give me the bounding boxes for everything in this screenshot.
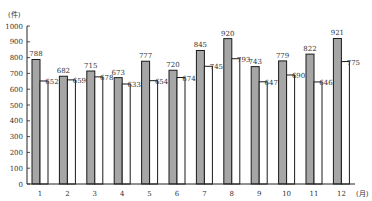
value-label: 921 (331, 29, 344, 37)
value-label: 788 (29, 50, 42, 58)
value-label: 777 (139, 52, 152, 60)
y-tick-label: 200 (10, 149, 23, 157)
bar-series-white (314, 82, 322, 184)
value-label: 715 (84, 62, 97, 70)
bar-series-gray (251, 67, 259, 184)
y-tick-label: 400 (10, 117, 23, 125)
bar-series-white (95, 77, 103, 184)
bar-group-month-3: 715678 (84, 62, 113, 184)
bar-series-gray (224, 39, 232, 184)
value-label: 682 (57, 67, 70, 75)
y-tick-label: 800 (10, 54, 23, 62)
value-label: 654 (155, 78, 169, 86)
y-tick-label: 700 (10, 70, 23, 78)
x-tick-label: 6 (175, 190, 180, 198)
bar-series-white (40, 81, 48, 184)
y-tick-label: 500 (10, 102, 23, 110)
y-tick-label: 900 (10, 38, 23, 46)
y-tick-label: 100 (10, 165, 23, 173)
value-label: 633 (128, 81, 141, 89)
bar-group-month-2: 682659 (57, 67, 86, 184)
bar-series-white (341, 62, 349, 184)
bar-series-white (177, 78, 185, 184)
bar-group-month-9: 743647 (249, 58, 278, 184)
bar-group-month-8: 920793 (221, 30, 250, 184)
value-label: 743 (249, 58, 262, 66)
bar-series-gray (196, 50, 204, 184)
x-tick-label: 2 (65, 190, 69, 198)
bar-group-month-12: 921775 (331, 29, 360, 184)
value-label: 673 (112, 69, 125, 77)
x-tick-label: 4 (120, 190, 125, 198)
y-tick-label: 600 (10, 86, 23, 94)
bar-series-white (259, 82, 267, 184)
value-label: 775 (347, 59, 360, 67)
bar-series-gray (169, 70, 177, 184)
bar-series-gray (306, 54, 314, 184)
value-label: 720 (166, 61, 179, 69)
value-label: 745 (210, 63, 223, 71)
x-axis-unit-label: (月) (356, 190, 369, 198)
bar-group-month-5: 777654 (139, 52, 169, 184)
bar-groups: 7886526826597156786736337776547206748457… (29, 29, 360, 184)
x-tick-label: 7 (202, 190, 206, 198)
y-tick-label: 0 (19, 181, 23, 189)
bar-series-gray (279, 61, 287, 184)
x-tick-label: 11 (310, 190, 319, 198)
bar-group-month-11: 822646 (303, 45, 333, 184)
x-tick-label: 5 (147, 190, 151, 198)
value-label: 822 (303, 45, 316, 53)
bar-series-white (122, 84, 130, 184)
x-tick-label: 10 (282, 190, 291, 198)
bar-group-month-4: 673633 (112, 69, 141, 184)
bar-series-white (67, 80, 75, 184)
bar-series-white (150, 81, 158, 184)
bar-group-month-10: 779690 (276, 52, 305, 184)
x-tick-label: 9 (257, 190, 261, 198)
value-label: 659 (73, 77, 86, 85)
bar-group-month-7: 845745 (194, 41, 223, 184)
x-axis: 123456789101112 (27, 184, 355, 198)
value-label: 652 (45, 78, 58, 86)
bar-series-gray (87, 71, 95, 184)
x-tick-label: 3 (93, 190, 97, 198)
y-tick-label: 1000 (5, 23, 23, 31)
y-tick-label: 300 (10, 133, 23, 141)
value-label: 646 (319, 79, 333, 87)
y-axis: 01002003004005006007008009001000 (5, 23, 30, 189)
value-label: 920 (221, 30, 234, 38)
value-label: 779 (276, 52, 289, 60)
value-label: 690 (292, 72, 305, 80)
x-tick-label: 8 (230, 190, 234, 198)
bar-series-white (204, 66, 212, 184)
bar-series-white (232, 59, 240, 184)
x-tick-label: 12 (337, 190, 346, 198)
value-label: 845 (194, 41, 207, 49)
bar-chart: (件) 01002003004005006007008009001000 788… (0, 0, 372, 201)
bar-group-month-1: 788652 (29, 50, 58, 184)
bar-series-gray (114, 78, 122, 184)
bar-series-gray (32, 59, 40, 184)
bar-group-month-6: 720674 (166, 61, 196, 184)
y-axis-unit-label: (件) (8, 10, 21, 19)
bar-series-gray (142, 61, 150, 184)
bar-series-white (287, 75, 295, 184)
value-label: 647 (265, 79, 278, 87)
x-tick-label: 1 (38, 190, 42, 198)
bar-series-gray (333, 38, 341, 184)
value-label: 674 (182, 75, 196, 83)
bar-series-gray (59, 76, 67, 184)
